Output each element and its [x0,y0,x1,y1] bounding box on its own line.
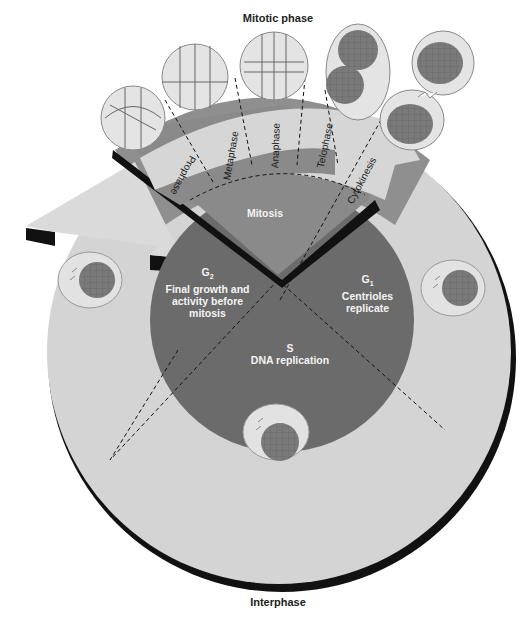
s-description: DNA replication [240,354,340,366]
anaphase-cell [240,32,308,100]
g2-description-line2: activity before [155,295,260,307]
telophase-cell [326,24,390,120]
s-cell [243,404,309,461]
g2-cell [58,252,122,308]
g1-description-line1: Centrioles [330,290,405,302]
interphase-title: Interphase [213,596,343,608]
g1-sector-label: G1 Centrioles replicate [330,273,405,314]
g2-symbol: G2 [155,266,260,283]
metaphase-cell [162,44,228,110]
g1-symbol: G1 [330,273,405,290]
g2-description-line3: mitosis [155,307,260,319]
cell-cycle-graphic [0,0,526,629]
mitotic-phase-title: Mitotic phase [213,12,343,24]
cytokinesis-cells [380,31,474,150]
s-symbol: S [240,342,340,354]
prophase-cell [101,86,165,150]
stage-label-anaphase: Anaphase [269,123,282,168]
s-sector-label: S DNA replication [240,342,340,366]
g1-description-line2: replicate [330,302,405,314]
cell-cycle-diagram: Mitotic phase Interphase Mitosis G2 Fina… [0,0,526,629]
g2-description-line1: Final growth and [155,283,260,295]
g1-cell [421,260,485,316]
mitosis-label: Mitosis [230,207,300,219]
g2-sector-label: G2 Final growth and activity before mito… [155,266,260,319]
